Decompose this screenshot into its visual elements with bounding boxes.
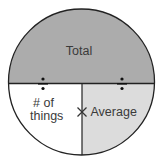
average-label: Average <box>91 105 137 119</box>
formula-circle-diagram: Total # of things Average <box>0 0 163 167</box>
count-label-line2: things <box>30 109 63 123</box>
total-label: Total <box>66 44 92 58</box>
count-label-line1: # of <box>33 96 54 110</box>
total-section <box>0 0 163 84</box>
